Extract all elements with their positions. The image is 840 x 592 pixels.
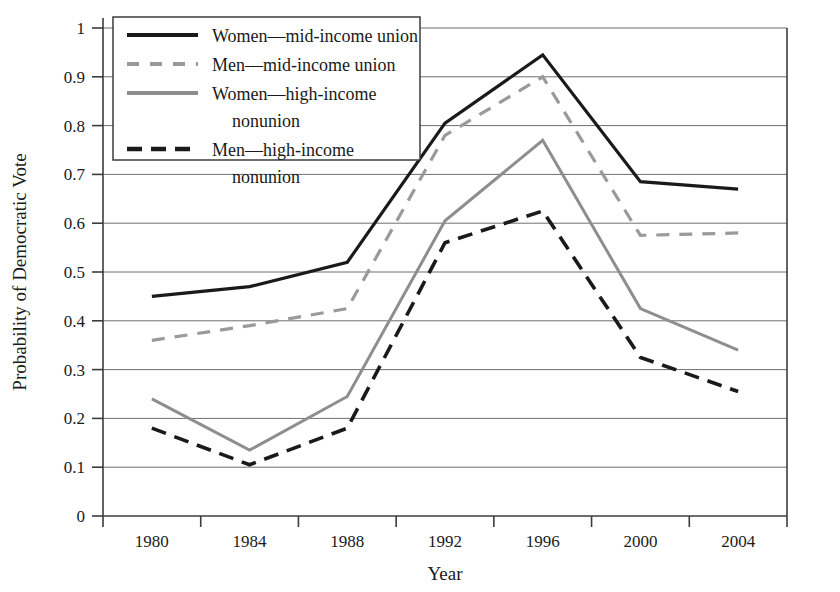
- y-tick-label: 0.7: [64, 165, 86, 184]
- y-tick-label: 0.2: [64, 409, 85, 428]
- x-tick-label: 1996: [526, 532, 560, 551]
- x-tick-label: 1984: [233, 532, 268, 551]
- y-tick-label: 0.9: [64, 68, 85, 87]
- y-tick-label: 0.5: [64, 263, 85, 282]
- legend-label-3: Men—high-income: [212, 140, 354, 160]
- y-tick-label: 0.1: [64, 458, 85, 477]
- x-tick-label: 1992: [428, 532, 462, 551]
- x-axis-title: Year: [427, 563, 463, 584]
- legend-label-2-cont: nonunion: [232, 111, 300, 131]
- line-chart: 00.10.20.30.40.50.60.70.80.91 1980198419…: [0, 0, 840, 592]
- x-tick-label: 2000: [623, 532, 657, 551]
- y-axis-title: Probability of Democratic Vote: [9, 153, 30, 390]
- y-tick-label: 0.3: [64, 361, 85, 380]
- legend-label-3-cont: nonunion: [232, 167, 300, 187]
- legend-label-2: Women—high-income: [212, 84, 377, 104]
- y-tick-label: 0: [77, 507, 86, 526]
- legend-label-0: Women—mid-income union: [212, 26, 418, 46]
- y-tick-label: 0.6: [64, 214, 85, 233]
- x-tick-label: 1988: [330, 532, 364, 551]
- chart-figure: 00.10.20.30.40.50.60.70.80.91 1980198419…: [0, 0, 840, 592]
- y-tick-label: 0.8: [64, 117, 85, 136]
- x-tick-label: 1980: [135, 532, 169, 551]
- y-tick-label: 1: [77, 19, 86, 38]
- x-tick-label: 2004: [721, 532, 756, 551]
- legend-label-1: Men—mid-income union: [212, 55, 395, 75]
- y-tick-label: 0.4: [64, 312, 86, 331]
